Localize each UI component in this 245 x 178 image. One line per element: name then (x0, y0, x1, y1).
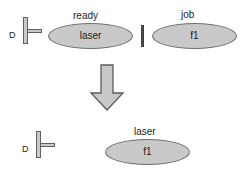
node-ellipse-laser-ready[interactable]: laser (48, 23, 133, 49)
before-state-group: D ready laser job f1 (0, 0, 245, 60)
separator-bar-icon (141, 25, 144, 47)
port-symbol-top (23, 17, 42, 44)
node-inner-label-f1-job: f1 (153, 31, 236, 41)
node-top-label-ready: ready (73, 11, 98, 21)
node-ellipse-f1-job[interactable]: f1 (152, 23, 237, 49)
port-stem-icon (28, 29, 42, 33)
node-inner-label-laser: laser (49, 31, 132, 41)
node-ellipse-f1-laser[interactable]: f1 (105, 139, 190, 165)
node-inner-label-f1-laser: f1 (106, 147, 189, 157)
transform-down-arrow-icon (89, 64, 125, 112)
port-stem-icon (41, 143, 55, 147)
diagram-canvas: D ready laser job f1 D (0, 0, 245, 178)
node-top-label-laser: laser (134, 127, 156, 137)
after-state-group: D laser f1 (0, 118, 245, 178)
node-top-label-job: job (181, 10, 194, 20)
port-symbol-bottom (36, 131, 55, 158)
port-label-d-top: D (9, 31, 16, 40)
port-label-d-bottom: D (22, 145, 29, 154)
